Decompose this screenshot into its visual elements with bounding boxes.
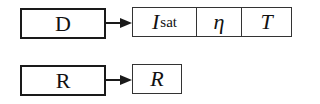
param-cell-r: R [133, 65, 181, 93]
arrow-d-to-params-icon [106, 15, 133, 31]
component-box-d: D [20, 8, 106, 39]
parameter-box-r: R [132, 64, 182, 94]
arrow-r-to-params-icon [106, 72, 133, 88]
param-symbol: T [260, 9, 272, 35]
component-box-r: R [20, 65, 106, 96]
param-symbol: R [150, 66, 163, 92]
param-cell-isat: Isat [133, 8, 197, 36]
param-cell-eta: η [197, 8, 242, 36]
param-symbol: η [214, 9, 225, 35]
component-label-d: D [55, 11, 71, 37]
param-symbol: I [152, 9, 159, 35]
component-label-r: R [56, 68, 71, 94]
parameter-box-d: Isat η T [132, 7, 292, 37]
param-cell-t: T [242, 8, 291, 36]
param-subscript: sat [160, 14, 177, 31]
